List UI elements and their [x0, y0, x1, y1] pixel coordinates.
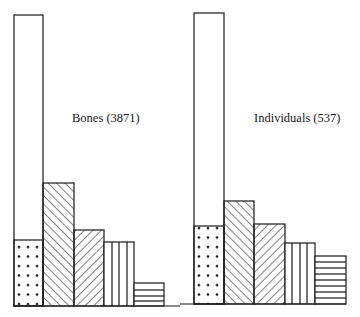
- bones-chart: [13, 15, 180, 306]
- bar-charts: [0, 0, 360, 317]
- bones-horizontal-bar: [134, 283, 164, 306]
- individuals-diagonal-left-bar: [254, 224, 285, 304]
- bones-diagonal-left-bar: [74, 230, 104, 306]
- individuals-horizontal-bar: [315, 256, 346, 304]
- individuals-vertical-bar: [285, 243, 315, 304]
- individuals-chart: [180, 13, 346, 304]
- individuals-diagonal-right-bar: [224, 201, 254, 304]
- bones-label: Bones (3871): [72, 111, 140, 126]
- bones-diagonal-right-bar: [43, 183, 74, 306]
- individuals-label: Individuals (537): [254, 111, 340, 126]
- bones-dotted-bar: [14, 240, 43, 306]
- individuals-dotted-bar: [194, 226, 224, 304]
- bones-vertical-bar: [104, 242, 134, 306]
